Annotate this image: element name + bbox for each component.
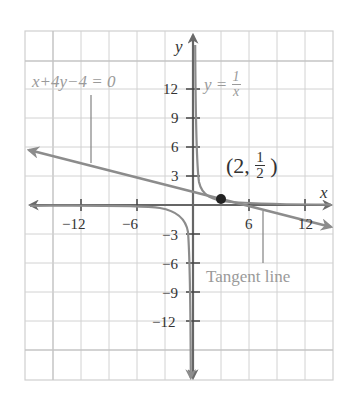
y-tick-label: −3: [162, 228, 178, 243]
tangency-point: [216, 194, 226, 204]
fraction-denominator: 2: [256, 166, 264, 181]
x-tick-label: 12: [298, 217, 313, 232]
point-label-close: ): [270, 153, 277, 178]
y-tick-label: −12: [152, 315, 175, 330]
point-label: (2, 1 2 ): [226, 150, 278, 181]
graph-canvas: [0, 0, 348, 395]
curve-equation-fraction: 1 x: [232, 70, 241, 99]
x-axis-label: x: [320, 184, 328, 201]
x-tick-label: −6: [122, 217, 138, 232]
y-tick-label: 6: [171, 140, 179, 155]
y-axis-label: y: [175, 38, 183, 55]
y-tick-label: −9: [162, 286, 178, 301]
y-tick-label: 9: [171, 111, 179, 126]
tangent-line-label: Tangent line: [206, 268, 290, 285]
x-tick-label: −12: [62, 217, 85, 232]
fraction-denominator: x: [233, 85, 239, 99]
point-label-open: (2,: [226, 153, 250, 178]
y-tick-label: 12: [163, 82, 178, 97]
line-equation-label: x+4y−4 = 0: [32, 73, 116, 90]
x-tick-label: 6: [245, 217, 253, 232]
fraction-numerator: 1: [255, 150, 265, 166]
fraction-numerator: 1: [232, 70, 241, 85]
curve-equation-lhs: y =: [204, 75, 227, 94]
y-tick-label: 3: [171, 169, 179, 184]
curve-equation-label: y = 1 x: [204, 70, 241, 99]
y-tick-label: −6: [162, 257, 178, 272]
point-label-fraction: 1 2: [255, 150, 265, 181]
